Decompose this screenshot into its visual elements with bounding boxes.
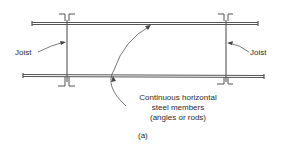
figure-caption: (a) — [138, 131, 148, 141]
top-steel-member — [32, 21, 258, 26]
bridging-diagram — [0, 0, 285, 148]
joist-right-label: Joist — [250, 48, 266, 58]
arrowhead-joist-right — [227, 41, 233, 45]
members-label-line1: Continuous horizontal — [124, 93, 232, 103]
joist-left-label: Joist — [15, 48, 31, 58]
arrowhead-joist-left — [60, 41, 66, 45]
diagram-canvas: Joist Joist Continuous horizontal steel … — [0, 0, 285, 148]
joist-left-leader — [38, 42, 64, 52]
members-label-line3: (angles or rods) — [124, 113, 232, 123]
members-label-line2: steel members — [124, 103, 232, 113]
arrowhead-top — [145, 25, 151, 30]
